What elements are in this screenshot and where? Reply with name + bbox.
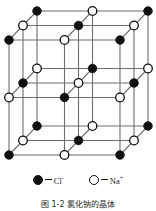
filled-circle-icon xyxy=(33,175,43,185)
lattice-node-na xyxy=(60,36,69,45)
lattice-node-cl xyxy=(144,122,153,131)
lattice-node-cl xyxy=(33,7,42,16)
lattice-node-cl xyxy=(144,7,153,16)
lattice-node-cl xyxy=(5,151,14,160)
legend-label-chloride: Cl- xyxy=(54,174,64,186)
lattice-node-na xyxy=(116,93,125,102)
lattice-node-na xyxy=(130,21,139,30)
legend-label-sodium: Na+ xyxy=(110,174,123,186)
lattice-node-na xyxy=(74,79,83,88)
lattice-node-na xyxy=(33,64,42,73)
legend-item-chloride: Cl- xyxy=(33,174,64,186)
lattice-node-cl xyxy=(19,79,28,88)
figure-caption: 图 1-2 氯化钠的晶体 xyxy=(0,198,156,209)
lattice-node-na xyxy=(144,64,153,73)
lattice-node-na xyxy=(19,136,28,145)
legend-item-sodium: Na+ xyxy=(89,174,123,186)
lattice-node-cl xyxy=(116,151,125,160)
lattice-node-na xyxy=(60,151,69,160)
lattice-node-na xyxy=(5,93,14,102)
lattice-node-cl xyxy=(116,36,125,45)
lattice-node-na xyxy=(88,122,97,131)
open-circle-icon xyxy=(89,175,99,185)
lattice-node-na xyxy=(19,21,28,30)
lattice-node-cl xyxy=(33,122,42,131)
lattice-node-cl xyxy=(130,79,139,88)
lattice-node-cl xyxy=(74,136,83,145)
lattice-node-cl xyxy=(5,36,14,45)
lattice-node-cl xyxy=(88,64,97,73)
lattice-node-cl xyxy=(74,21,83,30)
legend-dash-icon xyxy=(45,179,52,180)
lattice-node-na xyxy=(88,7,97,16)
lattice-node-na xyxy=(130,136,139,145)
legend-dash-icon xyxy=(101,179,108,180)
legend: Cl- Na+ xyxy=(0,170,156,190)
lattice-node-cl xyxy=(60,93,69,102)
